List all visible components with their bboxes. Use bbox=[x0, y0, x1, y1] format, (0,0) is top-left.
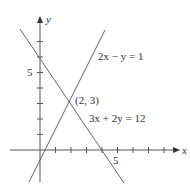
y-tick-label-5: 5 bbox=[27, 66, 33, 78]
x-axis-arrow-icon bbox=[173, 147, 180, 153]
y-axis-label: y bbox=[45, 13, 51, 25]
x-tick-label-5: 5 bbox=[113, 154, 119, 166]
x-axis-label: x bbox=[181, 144, 187, 156]
chart-canvas: y x 5 5 2x − y = 1 3x + 2y = 12 (2, 3) bbox=[0, 0, 190, 188]
intersection-label: (2, 3) bbox=[75, 94, 99, 107]
line2-label: 3x + 2y = 12 bbox=[89, 112, 145, 124]
line1-label: 2x − y = 1 bbox=[98, 50, 143, 62]
y-axis-arrow-icon bbox=[37, 16, 43, 23]
